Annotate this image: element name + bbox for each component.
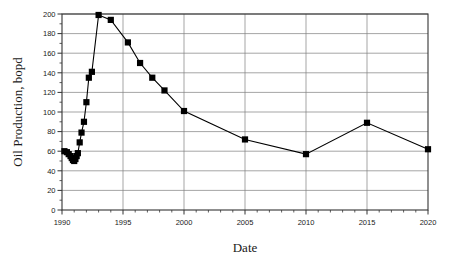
data-point-marker [137,60,143,66]
data-point-marker [181,108,187,114]
oil-production-line-chart: 0204060801001201401601802001990199520002… [0,0,460,261]
data-series-oil-production [61,12,431,164]
x-tick-label: 2005 [237,218,254,227]
data-point-marker [108,17,114,23]
x-tick-label: 1990 [54,218,71,227]
y-tick-label: 20 [47,186,55,195]
y-tick-label: 120 [43,88,56,97]
data-point-marker [303,151,309,157]
tick-marks [58,14,429,215]
y-tick-label: 100 [43,108,56,117]
x-tick-label: 2000 [176,218,193,227]
x-tick-label: 2020 [420,218,437,227]
data-point-marker [83,99,89,105]
y-tick-label: 0 [51,206,55,215]
data-point-marker [89,69,95,75]
data-point-marker [96,12,102,18]
y-tick-label: 60 [47,147,55,156]
y-tick-label: 40 [47,167,55,176]
y-tick-label: 180 [43,29,56,38]
y-tick-label: 80 [47,127,55,136]
data-point-marker [125,39,131,45]
data-point-marker [81,119,87,125]
data-point-marker [149,75,155,81]
grid-layer [62,14,428,210]
y-tick-label: 200 [43,10,56,19]
x-axis-label: Date [233,240,258,255]
x-tick-label: 2010 [298,218,315,227]
data-point-marker [425,146,431,152]
y-tick-label: 140 [43,69,56,78]
data-point-marker [86,75,92,81]
data-point-marker [77,139,83,145]
data-point-marker [161,87,167,93]
y-tick-label: 160 [43,49,56,58]
data-point-marker [78,129,84,135]
data-point-marker [364,120,370,126]
y-axis-label: Oil Production, bopd [10,57,25,167]
data-point-marker [242,136,248,142]
data-point-marker [75,150,81,156]
chart-figure: 0204060801001201401601802001990199520002… [0,0,460,261]
tick-labels: 0204060801001201401601802001990199520002… [43,10,436,227]
x-tick-label: 1995 [115,218,132,227]
x-tick-label: 2015 [359,218,376,227]
